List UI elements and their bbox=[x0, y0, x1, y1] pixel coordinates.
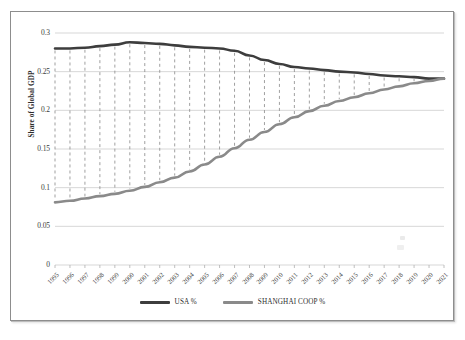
legend-entry: SHANGHAI COOP % bbox=[223, 298, 326, 306]
legend-swatch bbox=[140, 301, 170, 304]
legend-entry: USA % bbox=[140, 298, 197, 306]
chart-legend: USA %SHANGHAI COOP % bbox=[0, 298, 465, 306]
legend-label: USA % bbox=[175, 298, 197, 306]
series-line bbox=[55, 42, 444, 78]
chart-figure: Share of Global GDP 00.050.10.150.20.250… bbox=[0, 0, 465, 340]
scan-artifact bbox=[400, 236, 405, 240]
legend-swatch bbox=[223, 301, 253, 304]
legend-label: SHANGHAI COOP % bbox=[258, 298, 326, 306]
series-line bbox=[55, 79, 444, 203]
plot-canvas bbox=[0, 0, 465, 340]
gridlines bbox=[55, 33, 444, 265]
droplines bbox=[55, 44, 414, 200]
scan-artifact-2 bbox=[397, 245, 404, 250]
axis-tickmarks bbox=[55, 265, 444, 268]
chart-screenshot: Share of Global GDP 00.050.10.150.20.250… bbox=[0, 0, 465, 340]
